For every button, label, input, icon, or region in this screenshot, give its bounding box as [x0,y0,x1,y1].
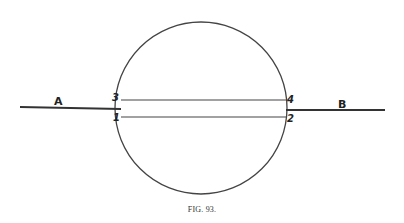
figure-caption: FIG. 93. [0,205,404,214]
label-4: 4 [286,94,294,105]
label-3: 3 [112,92,119,103]
label-b: B [338,98,346,111]
label-a: A [54,95,63,108]
label-2: 2 [287,113,294,124]
figure-diagram: A B 3 1 4 2 [0,0,404,223]
line-a [20,107,121,109]
label-1: 1 [113,112,120,123]
circle [115,22,287,194]
